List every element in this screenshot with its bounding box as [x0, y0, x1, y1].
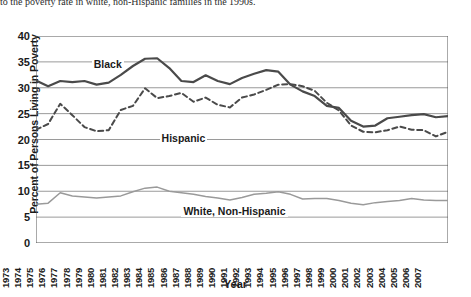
series-line-hispanic [36, 84, 448, 136]
y-axis-tick: 20 [8, 134, 30, 146]
y-axis-tick: 25 [8, 108, 30, 120]
x-axis-title: Year [0, 278, 471, 290]
series-line-white-non-hispanic [36, 187, 448, 205]
series-label: Hispanic [160, 132, 208, 144]
y-axis-tick: 35 [8, 56, 30, 68]
figure-caption: to the poverty rate in white, non-Hispan… [0, 0, 471, 8]
series-label: Black [92, 58, 124, 70]
y-axis-tick: 5 [8, 211, 30, 223]
y-axis-tick: 40 [8, 30, 30, 42]
chart-figure: to the poverty rate in white, non-Hispan… [0, 0, 471, 297]
y-axis-tick: 10 [8, 185, 30, 197]
y-axis-tick: 15 [8, 159, 30, 171]
y-axis-tick: 30 [8, 82, 30, 94]
series-label: White, Non-Hispanic [181, 205, 287, 217]
plot-area: BlackHispanicWhite, Non-Hispanic [36, 36, 448, 243]
